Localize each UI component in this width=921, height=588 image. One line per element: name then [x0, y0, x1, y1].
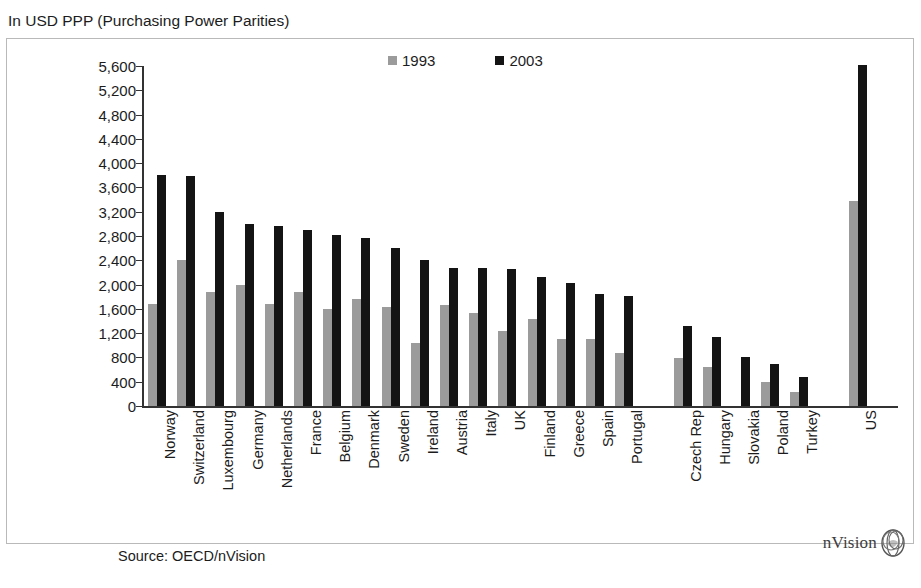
y-tick-label: 800 — [111, 349, 136, 366]
x-category-label: Netherlands — [279, 410, 295, 488]
bar-group — [528, 66, 548, 406]
x-category-label: Austria — [454, 410, 470, 455]
bar-1993 — [177, 260, 186, 406]
bar-group — [382, 66, 402, 406]
bar-group — [148, 66, 168, 406]
legend-swatch-1993 — [388, 56, 397, 65]
bar-2003 — [186, 176, 195, 406]
bar-group — [761, 66, 781, 406]
x-category-label: UK — [512, 410, 528, 430]
bar-1993 — [703, 367, 712, 406]
bar-1993 — [236, 285, 245, 406]
nvision-sphere-icon — [879, 528, 907, 558]
bar-1993 — [849, 201, 858, 406]
bar-1993 — [265, 304, 274, 406]
bar-2003 — [449, 268, 458, 406]
y-tick-label: 0 — [128, 398, 136, 415]
bar-1993 — [411, 343, 420, 406]
nvision-logo: nVision — [823, 528, 907, 558]
bar-1993 — [382, 307, 391, 406]
bar-group — [586, 66, 606, 406]
x-category-label: Slovakia — [746, 410, 762, 465]
bar-group — [674, 66, 694, 406]
y-tick-label: 3,600 — [98, 179, 136, 196]
y-tick-label: 3,200 — [98, 203, 136, 220]
bar-1993 — [352, 299, 361, 406]
bar-2003 — [274, 226, 283, 406]
y-tick-label: 4,400 — [98, 130, 136, 147]
bar-1993 — [615, 353, 624, 406]
x-axis-category-labels: NorwaySwitzerlandLuxembourgGermanyNether… — [142, 410, 900, 540]
bar-1993 — [206, 292, 215, 406]
y-axis-labels: 5,6005,2004,8004,4004,0003,6003,2002,800… — [60, 66, 136, 406]
x-category-label: US — [863, 410, 879, 430]
bar-2003 — [361, 238, 370, 406]
bar-1993 — [148, 304, 157, 406]
chart-page: In USD PPP (Purchasing Power Parities) 1… — [0, 0, 921, 588]
bar-2003 — [770, 364, 779, 407]
y-tick-label: 1,200 — [98, 325, 136, 342]
bar-group — [498, 66, 518, 406]
y-tick-label: 1,600 — [98, 300, 136, 317]
bar-group — [849, 66, 869, 406]
bar-1993 — [323, 309, 332, 406]
bar-group — [265, 66, 285, 406]
bar-2003 — [332, 235, 341, 406]
x-category-label: Sweden — [396, 410, 412, 462]
y-tick-label: 4,800 — [98, 106, 136, 123]
x-category-label: Denmark — [366, 410, 382, 469]
x-category-label: Luxembourg — [220, 410, 236, 491]
bar-group — [236, 66, 256, 406]
bar-group — [294, 66, 314, 406]
x-category-label: Greece — [571, 410, 587, 458]
x-category-label: Norway — [162, 410, 178, 459]
x-category-label: Portugal — [629, 410, 645, 464]
y-tick-label: 2,000 — [98, 276, 136, 293]
bar-1993 — [761, 382, 770, 406]
x-category-label: Czech Rep — [688, 410, 704, 482]
x-category-label: France — [308, 410, 324, 455]
y-tick-label: 400 — [111, 373, 136, 390]
bar-group — [703, 66, 723, 406]
bar-2003 — [741, 357, 750, 406]
bar-1993 — [498, 331, 507, 406]
x-category-label: Germany — [250, 410, 266, 470]
bar-1993 — [440, 305, 449, 406]
logo-wordmark: nVision — [823, 533, 877, 553]
bar-group — [352, 66, 372, 406]
bar-2003 — [391, 248, 400, 406]
bar-1993 — [294, 292, 303, 406]
bar-1993 — [528, 319, 537, 406]
bar-group — [469, 66, 489, 406]
bar-2003 — [566, 283, 575, 406]
bar-2003 — [712, 337, 721, 406]
bar-2003 — [595, 294, 604, 406]
bar-2003 — [157, 175, 166, 406]
bar-2003 — [245, 224, 254, 406]
plot-area — [142, 66, 900, 406]
source-note: Source: OECD/nVision — [118, 548, 265, 564]
x-category-label: Hungary — [717, 410, 733, 465]
bar-2003 — [303, 230, 312, 406]
bar-group — [323, 66, 343, 406]
y-tick-label: 2,400 — [98, 252, 136, 269]
bar-2003 — [215, 212, 224, 406]
bar-group — [557, 66, 577, 406]
bar-2003 — [683, 326, 692, 406]
page-title: In USD PPP (Purchasing Power Parities) — [8, 12, 289, 30]
bar-2003 — [624, 296, 633, 406]
bar-group — [615, 66, 635, 406]
y-tick-mark — [136, 406, 142, 407]
bar-group — [206, 66, 226, 406]
bar-series-container — [142, 66, 900, 406]
y-tick-label: 4,000 — [98, 155, 136, 172]
x-category-label: Turkey — [804, 410, 820, 454]
bar-group — [732, 66, 752, 406]
x-category-label: Ireland — [425, 410, 441, 454]
y-tick-label: 5,600 — [98, 58, 136, 75]
x-category-label: Poland — [775, 410, 791, 455]
x-category-label: Spain — [600, 410, 616, 447]
bar-2003 — [858, 65, 867, 406]
bar-group — [440, 66, 460, 406]
bar-1993 — [586, 339, 595, 406]
